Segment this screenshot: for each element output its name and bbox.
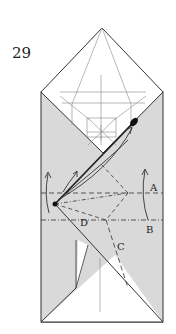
pivot-dot-icon (53, 202, 58, 207)
label-d: D (80, 217, 88, 228)
label-a: A (149, 182, 158, 193)
label-b: B (146, 224, 153, 235)
label-c: C (117, 241, 125, 252)
origami-diagram: A B C D (0, 0, 176, 334)
